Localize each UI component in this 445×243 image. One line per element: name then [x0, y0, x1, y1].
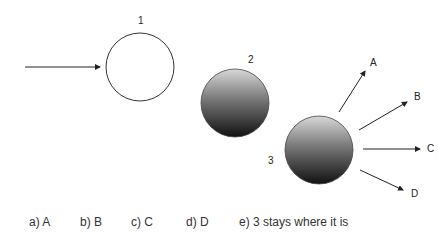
ball-3 [285, 116, 353, 184]
collision-diagram [0, 0, 445, 243]
answer-option-d: d) D [186, 215, 209, 229]
direction-c-label: C [427, 143, 434, 154]
answer-option-b: b) B [80, 215, 102, 229]
ball-1-label: 1 [138, 15, 144, 26]
ball-2-label: 2 [248, 54, 254, 65]
direction-a-label: A [370, 57, 377, 68]
answer-option-c: c) C [131, 215, 153, 229]
answer-option-e: e) 3 stays where it is [239, 215, 348, 229]
ball-2 [201, 69, 269, 137]
arrow-a [339, 71, 365, 112]
arrow-b [359, 102, 407, 130]
ball-3-label: 3 [268, 155, 274, 166]
ball-1 [106, 33, 174, 101]
arrow-d [360, 170, 403, 190]
answer-option-a: a) A [29, 215, 50, 229]
direction-b-label: B [414, 91, 421, 102]
direction-d-label: D [411, 188, 418, 199]
